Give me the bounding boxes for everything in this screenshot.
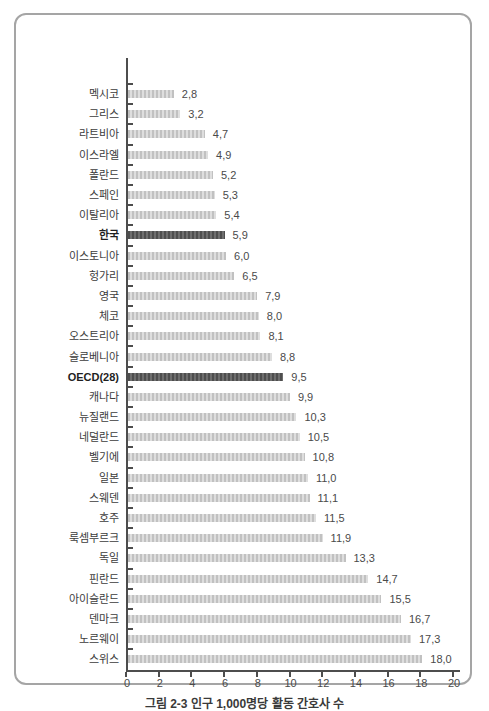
chart-row: OECD(28)9,5 (16, 367, 489, 387)
category-label: 벨기에 (16, 452, 119, 463)
category-label: 핀란드 (16, 573, 119, 584)
bar (128, 575, 368, 583)
x-axis-tick-label: 8 (255, 678, 261, 689)
category-label: 일본 (16, 472, 119, 483)
bar (128, 332, 260, 340)
x-axis-tick-label: 2 (157, 678, 163, 689)
chart-row: 뉴질랜드10,3 (16, 407, 489, 427)
value-label: 8,1 (268, 331, 283, 342)
value-label: 14,7 (376, 573, 397, 584)
chart-row: 노르웨이17,3 (16, 629, 489, 649)
category-label: 이탈리아 (16, 210, 119, 221)
value-label: 10,3 (304, 412, 325, 423)
value-label: 5,2 (221, 169, 236, 180)
bar-chart: 멕시코2,8그리스3,2라트비아4,7이스라엘4,9폴란드5,2스페인5,3이탈… (16, 84, 489, 669)
bar (128, 130, 205, 138)
chart-frame: 멕시코2,8그리스3,2라트비아4,7이스라엘4,9폴란드5,2스페인5,3이탈… (14, 13, 472, 685)
value-label: 2,8 (182, 89, 197, 100)
category-label: 오스트리아 (16, 331, 119, 342)
chart-row: 스웨덴11,1 (16, 488, 489, 508)
category-label: 덴마크 (16, 613, 119, 624)
chart-row: 스위스18,0 (16, 649, 489, 669)
chart-row: 벨기에10,8 (16, 447, 489, 467)
category-label: 스웨덴 (16, 492, 119, 503)
chart-row: 룩셈부르크11,9 (16, 528, 489, 548)
x-axis-tick-label: 12 (317, 678, 329, 689)
chart-row: 덴마크16,7 (16, 609, 489, 629)
category-label: 슬로베니아 (16, 351, 119, 362)
category-label: 헝가리 (16, 270, 119, 281)
bar (128, 514, 316, 522)
bar (128, 272, 234, 280)
category-label: 스페인 (16, 190, 119, 201)
chart-row: 멕시코2,8 (16, 84, 489, 104)
bar-emphasized (128, 231, 225, 239)
x-axis-tick-label: 10 (284, 678, 296, 689)
bar (128, 312, 259, 320)
category-label: 멕시코 (16, 89, 119, 100)
value-label: 18,0 (430, 654, 451, 665)
chart-row: 헝가리6,5 (16, 266, 489, 286)
chart-row: 폴란드5,2 (16, 165, 489, 185)
chart-row: 네덜란드10,5 (16, 427, 489, 447)
bar (128, 453, 305, 461)
bar (128, 534, 323, 542)
chart-row: 독일13,3 (16, 548, 489, 568)
chart-row: 영국7,9 (16, 286, 489, 306)
chart-row: 한국5,9 (16, 225, 489, 245)
x-axis-tick-label: 6 (222, 678, 228, 689)
x-axis-tick-label: 18 (415, 678, 427, 689)
value-label: 6,5 (242, 270, 257, 281)
value-label: 10,8 (313, 452, 334, 463)
category-label: 노르웨이 (16, 634, 119, 645)
chart-row: 라트비아4,7 (16, 124, 489, 144)
bar (128, 615, 401, 623)
value-label: 17,3 (419, 634, 440, 645)
bar (128, 353, 272, 361)
bar (128, 211, 216, 219)
chart-row: 이탈리아5,4 (16, 205, 489, 225)
category-label: 캐나다 (16, 391, 119, 402)
bar (128, 151, 208, 159)
value-label: 15,5 (389, 593, 410, 604)
chart-row: 핀란드14,7 (16, 569, 489, 589)
x-axis-tick-label: 0 (124, 678, 130, 689)
value-label: 4,7 (213, 129, 228, 140)
category-label: 영국 (16, 290, 119, 301)
value-label: 11,1 (318, 492, 339, 503)
category-label: 폴란드 (16, 169, 119, 180)
x-axis-tick-label: 16 (382, 678, 394, 689)
value-label: 7,9 (265, 290, 280, 301)
value-label: 6,0 (234, 250, 249, 261)
x-axis-tick-label: 20 (448, 678, 460, 689)
bar (128, 191, 215, 199)
bar (128, 655, 422, 663)
value-label: 11,5 (324, 513, 345, 524)
chart-row: 스페인5,3 (16, 185, 489, 205)
value-label: 8,8 (280, 351, 295, 362)
bar (128, 433, 300, 441)
value-label: 8,0 (267, 311, 282, 322)
bar (128, 90, 174, 98)
category-label: 이스라엘 (16, 149, 119, 160)
value-label: 11,9 (331, 533, 352, 544)
value-label: 9,9 (298, 391, 313, 402)
category-label: 스위스 (16, 654, 119, 665)
value-label: 5,4 (224, 210, 239, 221)
value-label: 5,3 (223, 190, 238, 201)
chart-row: 아이슬란드15,5 (16, 589, 489, 609)
category-label: 뉴질랜드 (16, 412, 119, 423)
category-label: 체코 (16, 311, 119, 322)
value-label: 5,9 (233, 230, 248, 241)
bar (128, 635, 411, 643)
value-label: 4,9 (216, 149, 231, 160)
chart-row: 체코8,0 (16, 306, 489, 326)
category-label: 독일 (16, 553, 119, 564)
category-label: 라트비아 (16, 129, 119, 140)
value-label: 10,5 (308, 432, 329, 443)
bar (128, 413, 296, 421)
category-label: 네덜란드 (16, 432, 119, 443)
category-label: 이스토니아 (16, 250, 119, 261)
bar (128, 474, 308, 482)
x-axis-line (126, 670, 460, 672)
